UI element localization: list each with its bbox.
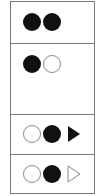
- filled-circle-icon: [23, 13, 41, 31]
- hollow-triangle-right-icon: [67, 165, 81, 183]
- panel-3: [11, 114, 94, 154]
- diagram-frame: [10, 1, 95, 194]
- panel-4: [11, 154, 94, 194]
- filled-circle-icon: [23, 55, 41, 73]
- filled-circle-icon: [43, 125, 61, 143]
- hollow-circle-icon: [43, 55, 61, 73]
- filled-circle-icon: [43, 165, 61, 183]
- hollow-circle-icon: [23, 125, 41, 143]
- hollow-circle-icon: [23, 165, 41, 183]
- panel-2: [11, 43, 94, 114]
- filled-triangle-right-icon: [67, 125, 81, 143]
- panel-1: [11, 2, 94, 43]
- filled-circle-icon: [43, 13, 61, 31]
